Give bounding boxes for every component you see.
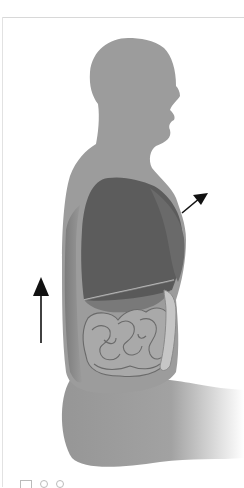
circle-icon[interactable] <box>56 480 64 488</box>
expand-icon[interactable] <box>20 480 32 488</box>
lower-body <box>62 380 244 467</box>
up-right-arrow-icon <box>182 193 208 213</box>
intestines <box>83 308 172 376</box>
circle-icon[interactable] <box>40 480 48 488</box>
viewer-toolbar <box>20 480 64 487</box>
up-arrow-icon <box>33 277 49 343</box>
